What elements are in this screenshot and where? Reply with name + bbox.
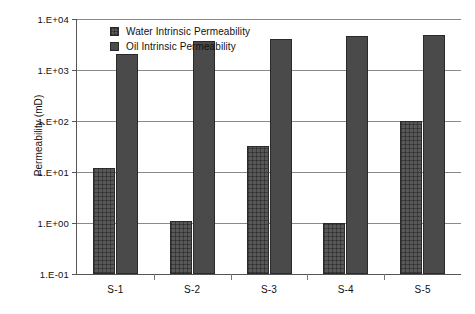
y-tickmark: [72, 223, 77, 224]
water-bar-s-3[interactable]: [247, 146, 269, 274]
x-axis-label-s-4: S-4: [338, 284, 354, 295]
y-tickmark: [72, 172, 77, 173]
permeability-bar-chart: Permeability (mD) 1.E+041.E+031.E+021.E+…: [0, 0, 475, 314]
legend-swatch-icon: [110, 42, 119, 51]
x-axis-label-s-1: S-1: [107, 284, 123, 295]
y-axis-title: Permeability (mD): [33, 26, 44, 246]
x-tickmark: [384, 274, 385, 280]
oil-bar-s-1[interactable]: [116, 54, 138, 274]
legend-item-water[interactable]: Water Intrinsic Permeability: [110, 24, 250, 39]
y-tick-label: 1.E+03: [37, 65, 69, 76]
y-tick-label: 1.E+01: [37, 167, 69, 178]
y-tick-label: 1.E+02: [37, 116, 69, 127]
water-bar-s-1[interactable]: [93, 168, 115, 274]
bar-group: [170, 19, 215, 274]
oil-bar-s-5[interactable]: [423, 35, 445, 274]
water-bar-s-2[interactable]: [170, 221, 192, 274]
bar-group: [93, 19, 138, 274]
bar-group: [323, 19, 368, 274]
y-tickmark: [72, 19, 77, 20]
chart-legend: Water Intrinsic PermeabilityOil Intrinsi…: [110, 24, 250, 54]
y-tick-label: 1.E+00: [37, 218, 69, 229]
y-tick-label: 1.E-01: [40, 269, 69, 280]
x-tickmark: [231, 274, 232, 280]
x-tickmark: [154, 274, 155, 280]
plot-area: 1.E+041.E+031.E+021.E+011.E+001.E-01S-1S…: [76, 19, 461, 275]
bar-group: [400, 19, 445, 274]
x-axis-label-s-2: S-2: [184, 284, 200, 295]
y-tick-label: 1.E+04: [37, 14, 69, 25]
bar-group: [247, 19, 292, 274]
x-tickmark: [307, 274, 308, 280]
water-bar-s-5[interactable]: [400, 121, 422, 274]
y-tickmark: [72, 274, 77, 275]
oil-bar-s-3[interactable]: [270, 39, 292, 274]
x-axis-label-s-5: S-5: [415, 284, 431, 295]
legend-label: Oil Intrinsic Permeability: [126, 41, 236, 52]
oil-bar-s-4[interactable]: [346, 36, 368, 274]
legend-swatch-icon: [110, 27, 119, 36]
water-bar-s-4[interactable]: [323, 223, 345, 274]
y-tickmark: [72, 121, 77, 122]
legend-label: Water Intrinsic Permeability: [126, 26, 250, 37]
oil-bar-s-2[interactable]: [193, 41, 215, 274]
y-tickmark: [72, 70, 77, 71]
legend-item-oil[interactable]: Oil Intrinsic Permeability: [110, 39, 250, 54]
x-axis-label-s-3: S-3: [261, 284, 277, 295]
